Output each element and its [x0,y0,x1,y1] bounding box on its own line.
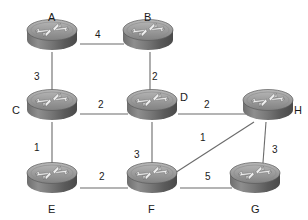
router-icon-d[interactable] [124,88,180,122]
edge-weight-f-g: 5 [205,172,211,182]
node-label-e: E [48,204,55,215]
router-icon-e[interactable] [24,161,80,195]
edge-weight-c-e: 1 [34,143,40,153]
router-icon-a[interactable] [24,18,80,52]
edge-weight-b-d: 2 [152,72,158,82]
edge-weight-f-h: 1 [200,133,206,143]
edge-weight-d-f: 3 [134,150,140,160]
node-label-a: A [48,12,55,23]
router-icon-f[interactable] [124,161,180,195]
node-label-d: D [180,92,188,103]
edge-weight-g-h: 3 [272,145,278,155]
edge-weight-a-b: 4 [95,30,101,40]
network-diagram: ABCDHEFG43222131253 [0,0,308,220]
edge-weight-c-d: 2 [98,100,104,110]
node-label-f: F [148,204,155,215]
node-label-b: B [144,12,151,23]
router-icon-h[interactable] [240,88,296,122]
node-label-g: G [251,204,260,215]
router-icon-g[interactable] [227,161,283,195]
router-icon-c[interactable] [24,88,80,122]
node-label-c: C [12,105,20,116]
edge-weight-d-h: 2 [204,100,210,110]
edge-weight-e-f: 2 [99,172,105,182]
router-icon-b[interactable] [120,18,176,52]
edge-weight-a-c: 3 [34,72,40,82]
node-label-h: H [294,105,302,116]
